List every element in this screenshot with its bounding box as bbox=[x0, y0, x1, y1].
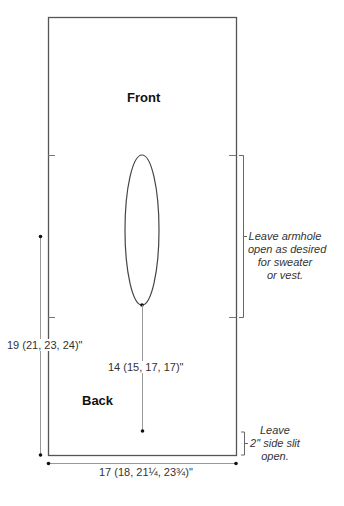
length-bottom-dot bbox=[39, 453, 43, 457]
armhole-note-line-4: or vest. bbox=[248, 269, 322, 282]
armhole-note-line-1: Leave armhole bbox=[248, 230, 322, 243]
armhole-note-line-2: open as desired bbox=[248, 243, 322, 256]
width-dimension-label: 17 (18, 21¼, 23¾)" bbox=[99, 466, 193, 478]
length-top-dot bbox=[39, 235, 43, 239]
width-right-dot bbox=[234, 462, 238, 466]
neck-opening bbox=[125, 155, 159, 305]
back-label: Back bbox=[82, 393, 113, 408]
neck-depth-end-dot bbox=[141, 429, 145, 433]
armhole-note: Leave armhole open as desired for sweate… bbox=[248, 230, 322, 282]
side-slit-note-line-2: 2" side slit bbox=[249, 437, 301, 450]
side-slit-note-line-1: Leave bbox=[249, 424, 301, 437]
neck-depth-label: 14 (15, 17, 17)" bbox=[107, 361, 184, 373]
armhole-note-line-3: for sweater bbox=[248, 256, 322, 269]
side-slit-note-line-3: open. bbox=[249, 450, 301, 463]
armhole-bracket bbox=[239, 156, 247, 318]
width-left-dot bbox=[47, 462, 51, 466]
side-slit-bracket bbox=[241, 432, 248, 455]
front-label: Front bbox=[127, 90, 160, 105]
side-slit-note: Leave 2" side slit open. bbox=[249, 424, 301, 463]
length-dimension-label: 19 (21, 23, 24)" bbox=[6, 339, 83, 351]
